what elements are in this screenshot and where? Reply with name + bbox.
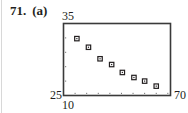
x-tick bbox=[121, 93, 122, 94]
data-point-center bbox=[111, 64, 112, 65]
x-tick bbox=[144, 93, 145, 94]
y-tick bbox=[65, 37, 66, 38]
scatter-plot bbox=[0, 0, 188, 113]
x-tick bbox=[133, 93, 134, 94]
y-tick bbox=[65, 81, 66, 82]
x-tick bbox=[98, 93, 99, 94]
data-point-center bbox=[88, 47, 89, 48]
data-point-center bbox=[99, 58, 100, 59]
data-point-center bbox=[122, 72, 123, 73]
data-point-center bbox=[76, 38, 77, 39]
data-point-center bbox=[133, 77, 134, 78]
data-points bbox=[75, 36, 159, 88]
data-point-center bbox=[144, 81, 145, 82]
x-tick bbox=[156, 93, 157, 94]
data-point-center bbox=[156, 86, 157, 87]
y-tick bbox=[65, 52, 66, 53]
x-tick bbox=[75, 93, 76, 94]
x-tick bbox=[167, 93, 168, 94]
x-tick bbox=[86, 93, 87, 94]
x-tick bbox=[109, 93, 110, 94]
y-tick bbox=[65, 66, 66, 67]
axis-ticks bbox=[65, 37, 168, 94]
